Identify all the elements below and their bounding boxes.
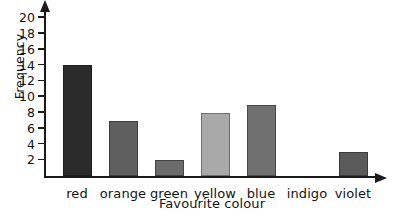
y-axis-tick-label: 10 <box>19 89 35 104</box>
x-axis-line <box>44 176 377 178</box>
y-axis-tick: 16 <box>38 48 44 50</box>
y-axis-tick: 18 <box>38 32 44 34</box>
y-axis-tick: 6 <box>38 127 44 129</box>
y-axis-tick: 8 <box>38 111 44 113</box>
y-axis-tick-label: 8 <box>27 104 35 119</box>
y-axis-tick-label: 4 <box>27 136 35 151</box>
bar-yellow <box>201 113 230 176</box>
bar-violet <box>339 152 368 176</box>
y-axis-tick: 4 <box>38 143 44 145</box>
y-axis-tick-label: 14 <box>19 57 35 72</box>
y-axis-tick-label: 12 <box>19 73 35 88</box>
y-axis-tick-label: 18 <box>19 25 35 40</box>
y-axis-tick: 12 <box>38 80 44 82</box>
y-axis-tick-label: 2 <box>27 152 35 167</box>
y-axis-tick: 14 <box>38 64 44 66</box>
y-axis-tick: 2 <box>38 159 44 161</box>
bar-blue <box>247 105 276 176</box>
bar-orange <box>109 121 138 176</box>
y-axis-arrow-icon <box>40 0 50 12</box>
y-axis-line <box>44 11 46 178</box>
y-axis-tick-label: 6 <box>27 120 35 135</box>
y-axis-tick: 20 <box>38 16 44 18</box>
plot-area: 2468101214161820 redorangegreenyellowblu… <box>44 6 384 178</box>
y-axis-tick-label: 16 <box>19 41 35 56</box>
y-axis-tick: 10 <box>38 95 44 97</box>
bar-red <box>63 65 92 176</box>
y-axis-tick-label: 20 <box>19 10 35 25</box>
x-axis-arrow-icon <box>375 173 387 183</box>
bar-chart: Frequency 2468101214161820 redorangegree… <box>0 0 393 218</box>
bar-green <box>155 160 184 176</box>
x-axis-label: Favourite colour <box>42 196 382 211</box>
